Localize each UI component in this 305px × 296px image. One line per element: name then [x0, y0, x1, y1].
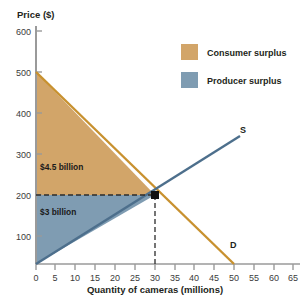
x-tick-label: 10 — [70, 273, 80, 283]
consumer-surplus-value-label: $4.5 billion — [40, 162, 83, 172]
supply-curve-label: S — [240, 125, 246, 135]
x-tick-label: 25 — [130, 273, 140, 283]
y-tick-label: 600 — [16, 27, 31, 37]
x-tick-label: 50 — [229, 273, 239, 283]
x-tick-marks — [36, 264, 293, 270]
x-tick-label: 65 — [288, 273, 298, 283]
y-tick-label: 300 — [16, 150, 31, 160]
x-tick-label: 15 — [90, 273, 100, 283]
x-tick-label: 35 — [170, 273, 180, 283]
x-axis-title: Quantity of cameras (millions) — [87, 284, 223, 295]
y-tick-label: 400 — [16, 109, 31, 119]
legend-swatch-producer-surplus — [181, 72, 198, 88]
x-tick-label: 55 — [249, 273, 259, 283]
x-tick-label: 40 — [189, 273, 199, 283]
y-tick-label: 200 — [16, 191, 31, 201]
y-tick-label: 500 — [16, 68, 31, 78]
demand-curve-label: D — [230, 240, 237, 250]
legend-label-consumer-surplus: Consumer surplus — [207, 48, 287, 58]
x-tick-label: 5 — [52, 273, 57, 283]
x-tick-label: 0 — [33, 273, 38, 283]
x-tick-label: 60 — [269, 273, 279, 283]
x-tick-label: 20 — [110, 273, 120, 283]
equilibrium-point-marker — [151, 191, 159, 199]
y-axis-title: Price ($) — [17, 9, 55, 20]
producer-surplus-value-label: $3 billion — [40, 207, 76, 217]
legend-swatch-consumer-surplus — [181, 44, 198, 60]
supply-demand-chart: 600 500 400 300 200 100 0 5 10 15 20 25 … — [0, 0, 305, 296]
chart-canvas: 600 500 400 300 200 100 0 5 10 15 20 25 … — [0, 0, 305, 296]
legend-label-producer-surplus: Producer surplus — [207, 76, 282, 86]
x-tick-label: 45 — [209, 273, 219, 283]
chart-legend: Consumer surplus Producer surplus — [181, 44, 287, 88]
y-tick-label: 100 — [16, 232, 31, 242]
x-tick-label: 30 — [150, 273, 160, 283]
